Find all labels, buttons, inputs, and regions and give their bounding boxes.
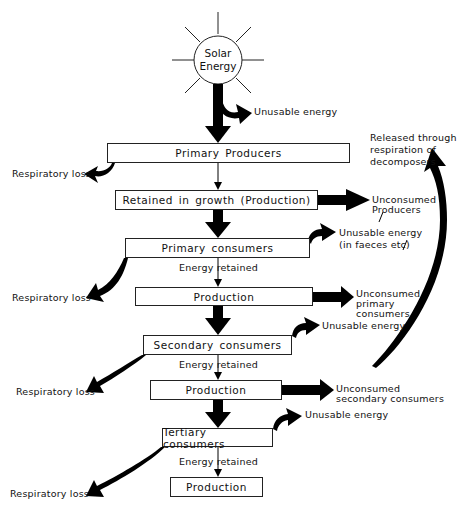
box-primary-producers: Primary Producers — [107, 143, 350, 163]
label-unconsumed-secondary: Unconsumed secondary consumers — [336, 384, 444, 404]
label-energy-retained-2: Energy retained — [179, 360, 258, 370]
label-unusable-energy-2: Unusable energy — [322, 321, 405, 331]
down-arrow-icon — [205, 210, 231, 238]
label-unusable-faeces: Unusable energy (in faeces etc) — [339, 227, 422, 251]
label-respiratory-loss-2: Respiratory loss — [12, 293, 91, 303]
curved-arrow-icon — [86, 258, 128, 302]
curved-arrow-icon — [218, 100, 252, 124]
label-energy-retained-1: Energy retained — [179, 263, 258, 273]
unusable-faeces-line1: Unusable energy — [339, 227, 422, 239]
down-arrow-icon — [205, 306, 231, 335]
curved-arrow-icon — [372, 148, 447, 368]
right-arrow-icon — [313, 286, 354, 308]
unconsumed-primary-line3: consumers — [356, 309, 420, 319]
right-arrow-icon — [282, 379, 334, 401]
label-respiratory-loss-3: Respiratory loss — [16, 387, 95, 397]
solar-label-line1: Solar — [193, 47, 243, 60]
decomposers-line3: decomposers — [370, 156, 457, 168]
label-unusable-energy-1: Unusable energy — [254, 107, 337, 117]
box-retained-in-growth: Retained in growth (Production) — [115, 190, 318, 210]
label-respiratory-loss-4: Respiratory loss — [10, 489, 89, 499]
down-arrow-icon — [205, 400, 231, 428]
unconsumed-producers-line2: Producers — [372, 205, 436, 215]
label-respiratory-loss-1: Respiratory loss — [12, 169, 91, 179]
curved-arrow-icon — [86, 447, 165, 497]
decomposers-line1: Released through — [370, 132, 457, 144]
label-unconsumed-producers: Unconsumed Producers — [372, 195, 436, 215]
solar-energy-label: Solar Energy — [193, 47, 243, 73]
unconsumed-secondary-line2: secondary consumers — [336, 394, 444, 404]
label-decomposers: Released through respiration of decompos… — [370, 132, 457, 168]
right-arrow-icon — [318, 189, 370, 211]
box-production-1: Production — [135, 287, 313, 306]
decomposers-line2: respiration of — [370, 144, 457, 156]
label-unusable-energy-3: Unusable energy — [305, 410, 388, 420]
solar-label-line2: Energy — [193, 60, 243, 73]
box-primary-consumers: Primary consumers — [125, 238, 310, 258]
box-production-2: Production — [150, 380, 282, 400]
down-arrow-icon — [214, 163, 222, 190]
curved-arrow-icon — [273, 408, 302, 431]
box-production-3: Production — [170, 477, 263, 497]
curved-arrow-icon — [308, 223, 336, 244]
box-tertiary-consumers: Tertiary consumers — [162, 428, 273, 447]
label-unconsumed-primary: Unconsumed primary consumers — [356, 289, 420, 319]
box-secondary-consumers: Secondary consumers — [143, 335, 292, 355]
unusable-faeces-line2: (in faeces etc) — [339, 239, 422, 251]
curved-arrow-icon — [292, 317, 320, 338]
label-energy-retained-3: Energy retained — [179, 457, 258, 467]
